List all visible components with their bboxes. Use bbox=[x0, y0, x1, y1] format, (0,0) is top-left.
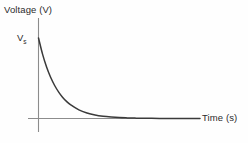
initial-voltage-subscript: s bbox=[23, 38, 26, 45]
decay-curve bbox=[39, 38, 201, 118]
x-axis-title: Time (s) bbox=[202, 112, 237, 123]
initial-voltage-label: Vs bbox=[17, 32, 27, 43]
voltage-decay-figure: Voltage (V) Time (s) Vs bbox=[0, 0, 248, 143]
y-axis-title: Voltage (V) bbox=[4, 4, 52, 15]
